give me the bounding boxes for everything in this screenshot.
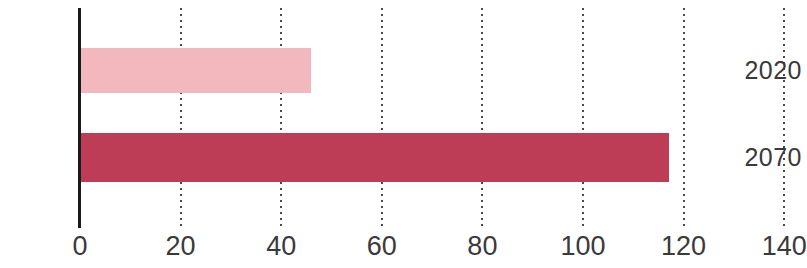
gridline-100 xyxy=(582,8,584,228)
gridline-80 xyxy=(481,8,483,228)
xtick-label-80: 80 xyxy=(467,233,497,260)
gridline-60 xyxy=(381,8,383,228)
xtick-label-0: 0 xyxy=(72,233,87,260)
gridline-40 xyxy=(280,8,282,228)
xtick-label-40: 40 xyxy=(266,233,296,260)
gridline-20 xyxy=(180,8,182,228)
xtick-label-140: 140 xyxy=(762,233,807,260)
bar-2020 xyxy=(80,48,311,93)
xtick-label-20: 20 xyxy=(166,233,196,260)
gridline-140 xyxy=(783,8,785,228)
xtick-label-120: 120 xyxy=(661,233,706,260)
category-label-2070: 2070 xyxy=(732,145,802,170)
xtick-label-60: 60 xyxy=(367,233,397,260)
xtick-label-100: 100 xyxy=(560,233,605,260)
gridline-120 xyxy=(683,8,685,228)
value-axis-line xyxy=(78,8,81,228)
bar-2070 xyxy=(80,133,669,182)
category-label-2020: 2020 xyxy=(732,58,802,83)
